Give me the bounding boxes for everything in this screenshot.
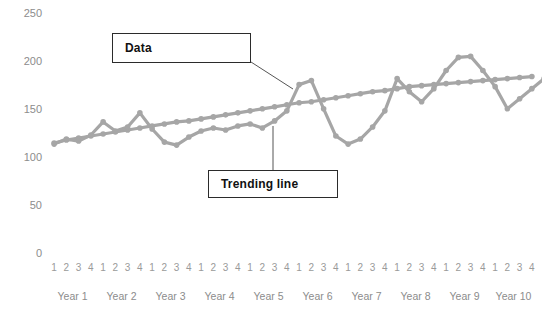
data-point bbox=[51, 141, 57, 147]
data-point bbox=[235, 123, 241, 129]
quarter-tick-label: 3 bbox=[73, 260, 85, 280]
data-point bbox=[370, 124, 376, 130]
data-point bbox=[100, 119, 106, 125]
quarter-tick-label: 2 bbox=[403, 260, 415, 280]
data-point bbox=[198, 116, 204, 122]
quarter-tick-label: 2 bbox=[256, 260, 268, 280]
data-point bbox=[333, 95, 339, 101]
year-label: Year 6 bbox=[293, 286, 342, 310]
quarter-tick-label: 2 bbox=[452, 260, 464, 280]
data-point bbox=[223, 127, 229, 133]
trend-callout-label: Trending line bbox=[209, 177, 298, 191]
data-point bbox=[456, 55, 462, 61]
data-point bbox=[137, 125, 143, 131]
data-point bbox=[260, 125, 266, 131]
data-point bbox=[529, 74, 535, 80]
quarter-tick-label: 1 bbox=[244, 260, 256, 280]
data-point bbox=[186, 134, 192, 140]
quarter-tick-row: 1234123412341234123412341234123412341234 bbox=[48, 260, 538, 280]
data-point bbox=[309, 78, 315, 84]
data-point bbox=[296, 82, 302, 88]
year-label: Year 3 bbox=[146, 286, 195, 310]
data-point bbox=[419, 99, 425, 105]
year-label: Year 7 bbox=[342, 286, 391, 310]
quarter-tick-label: 1 bbox=[195, 260, 207, 280]
data-point bbox=[505, 106, 511, 112]
year-label: Year 2 bbox=[97, 286, 146, 310]
data-point bbox=[358, 91, 364, 97]
quarter-tick-label: 1 bbox=[440, 260, 452, 280]
data-point bbox=[505, 76, 511, 82]
quarter-tick-label: 4 bbox=[183, 260, 195, 280]
quarter-tick-label: 4 bbox=[330, 260, 342, 280]
quarter-tick-label: 3 bbox=[318, 260, 330, 280]
series-trending-line bbox=[54, 77, 532, 144]
quarter-tick-label: 4 bbox=[379, 260, 391, 280]
data-point bbox=[174, 119, 180, 125]
y-tick-label: 100 bbox=[24, 152, 42, 163]
quarter-tick-label: 2 bbox=[501, 260, 513, 280]
data-point bbox=[211, 125, 217, 131]
data-point bbox=[370, 89, 376, 95]
data-point bbox=[186, 118, 192, 124]
quarter-tick-label: 2 bbox=[354, 260, 366, 280]
data-point bbox=[309, 99, 315, 105]
data-point bbox=[247, 108, 253, 114]
data-point bbox=[394, 76, 400, 82]
quarter-tick-label: 1 bbox=[48, 260, 60, 280]
data-point bbox=[88, 132, 94, 138]
data-point bbox=[198, 128, 204, 134]
y-axis: 250 200 150 100 50 0 bbox=[0, 0, 48, 262]
data-point bbox=[247, 121, 253, 127]
quarter-tick-label: 1 bbox=[489, 260, 501, 280]
data-point bbox=[296, 100, 302, 106]
data-point bbox=[321, 106, 327, 112]
data-point bbox=[468, 54, 474, 60]
quarter-tick-label: 4 bbox=[134, 260, 146, 280]
year-label-row: Year 1Year 2Year 3Year 4Year 5Year 6Year… bbox=[48, 286, 538, 310]
y-tick-label: 0 bbox=[36, 248, 42, 259]
data-point bbox=[468, 79, 474, 85]
data-point bbox=[272, 104, 278, 110]
data-point bbox=[64, 136, 70, 142]
series-trending-line-markers bbox=[51, 74, 534, 146]
data-point bbox=[284, 108, 290, 114]
quarter-tick-label: 2 bbox=[305, 260, 317, 280]
data-point bbox=[492, 84, 498, 90]
data-point bbox=[419, 83, 425, 89]
year-label: Year 4 bbox=[195, 286, 244, 310]
data-point bbox=[211, 114, 217, 120]
quarter-tick-label: 4 bbox=[428, 260, 440, 280]
data-point bbox=[345, 141, 351, 147]
data-point bbox=[260, 106, 266, 112]
data-point bbox=[517, 75, 523, 81]
quarter-tick-label: 4 bbox=[281, 260, 293, 280]
data-point bbox=[456, 80, 462, 86]
quarter-tick-label: 1 bbox=[97, 260, 109, 280]
data-point bbox=[358, 136, 364, 142]
quarter-tick-label: 3 bbox=[367, 260, 379, 280]
quarter-tick-label: 3 bbox=[416, 260, 428, 280]
data-point bbox=[382, 108, 388, 114]
quarter-tick-label: 4 bbox=[526, 260, 538, 280]
quarter-tick-label: 4 bbox=[477, 260, 489, 280]
quarter-tick-label: 1 bbox=[293, 260, 305, 280]
quarter-tick-label: 1 bbox=[342, 260, 354, 280]
data-point bbox=[480, 78, 486, 84]
quarter-tick-label: 3 bbox=[269, 260, 281, 280]
quarter-tick-label: 3 bbox=[514, 260, 526, 280]
year-label: Year 1 bbox=[48, 286, 97, 310]
data-callout-box: Data bbox=[112, 33, 251, 63]
year-label: Year 5 bbox=[244, 286, 293, 310]
quarter-tick-label: 3 bbox=[465, 260, 477, 280]
data-point bbox=[125, 124, 131, 130]
year-label: Year 10 bbox=[489, 286, 538, 310]
data-point bbox=[76, 138, 82, 144]
y-tick-label: 200 bbox=[24, 56, 42, 67]
data-point bbox=[407, 89, 413, 95]
quarter-tick-label: 4 bbox=[232, 260, 244, 280]
year-label: Year 9 bbox=[440, 286, 489, 310]
data-point bbox=[113, 128, 119, 134]
trend-callout-box: Trending line bbox=[208, 170, 338, 198]
quarter-tick-label: 2 bbox=[158, 260, 170, 280]
